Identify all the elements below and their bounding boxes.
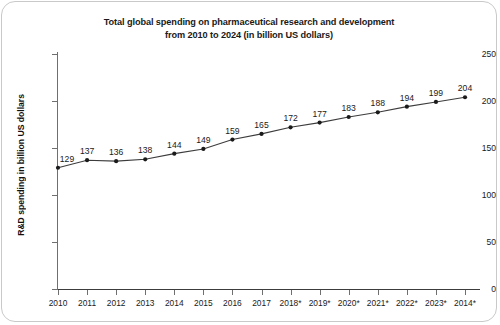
data-point-marker (318, 121, 322, 125)
chart-card: Total global spending on pharmaceutical … (1, 1, 497, 322)
data-point-marker (405, 105, 409, 109)
data-point-marker (114, 159, 118, 163)
data-point-marker (259, 132, 263, 136)
data-point-marker (172, 152, 176, 156)
data-point-marker (201, 147, 205, 151)
data-point-marker (347, 115, 351, 119)
plot-area: 050100150200250 201020112012201320142015… (2, 2, 496, 321)
data-point-marker (143, 157, 147, 161)
data-point-label: 149 (186, 135, 220, 145)
data-point-label: 204 (448, 83, 482, 93)
data-point-marker (434, 100, 438, 104)
data-point-marker (376, 110, 380, 114)
data-point-marker (288, 125, 292, 129)
data-point-marker (85, 158, 89, 162)
data-point-marker (230, 137, 234, 141)
data-point-marker (56, 166, 60, 170)
data-point-marker (463, 95, 467, 99)
